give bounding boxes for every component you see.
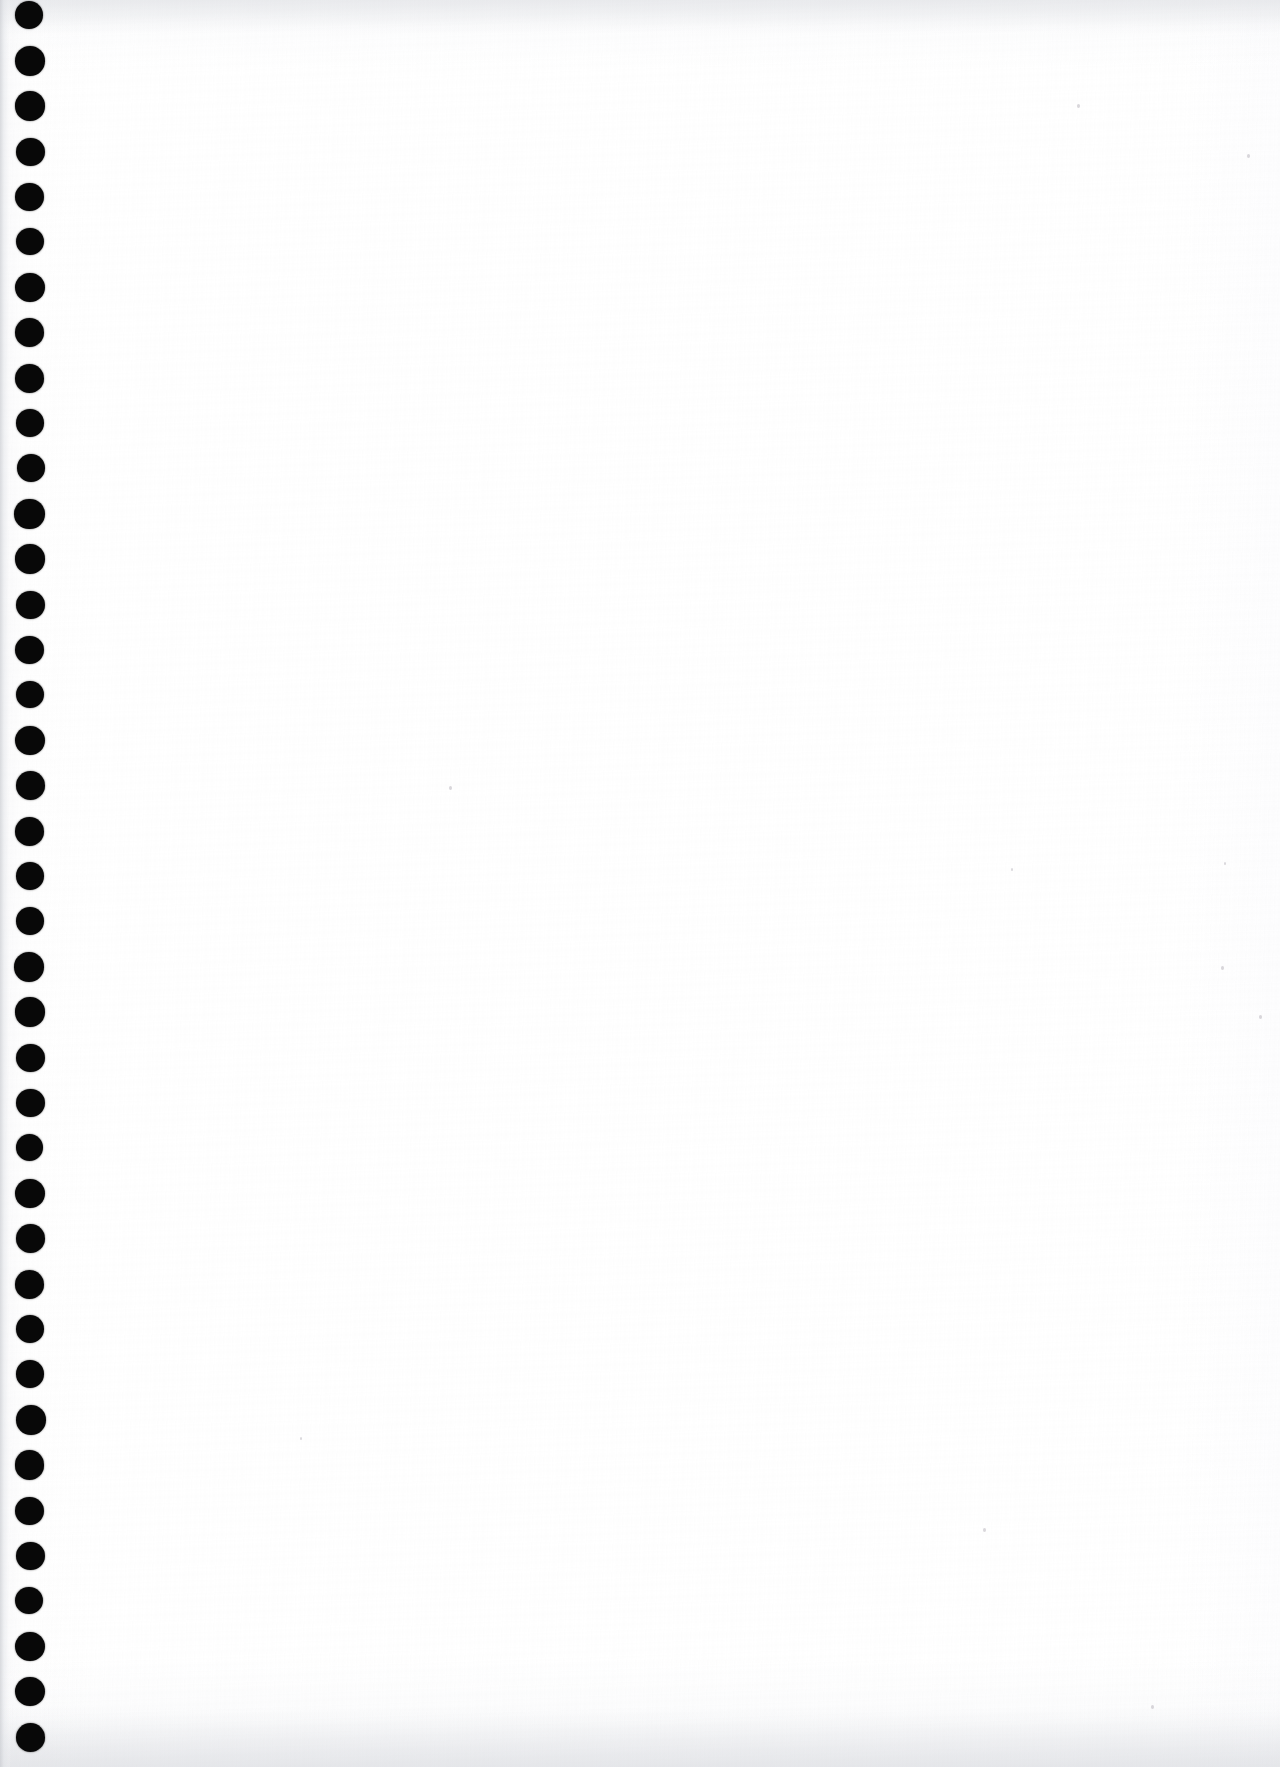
binding-hole [15, 726, 45, 756]
binding-hole [15, 364, 44, 393]
binding-hole [15, 1179, 45, 1209]
binding-hole [16, 1089, 44, 1117]
binding-hole [16, 409, 44, 437]
binding-hole [16, 681, 44, 708]
binding-hole [16, 1405, 46, 1435]
page-writing-area [70, 0, 1280, 1767]
binding-hole [16, 1360, 44, 1387]
binding-hole [15, 1270, 44, 1299]
binding-hole [16, 138, 45, 167]
binding-hole [15, 318, 45, 347]
binding-hole [17, 454, 45, 481]
binding-hole [16, 1315, 44, 1343]
binding-hole [16, 1723, 45, 1752]
binding-hole [15, 91, 45, 120]
binding-hole [15, 1, 43, 28]
binding-hole-column [0, 0, 70, 1767]
binding-hole [14, 499, 44, 529]
binding-hole [14, 952, 44, 982]
binding-hole [16, 591, 45, 620]
binding-hole [16, 228, 44, 255]
binding-hole [16, 1134, 44, 1161]
binding-hole [15, 1587, 43, 1614]
scanned-page [0, 0, 1280, 1767]
binding-hole [16, 862, 44, 890]
binding-hole [15, 46, 45, 76]
binding-hole [16, 907, 44, 934]
binding-hole [15, 1450, 45, 1479]
binding-hole [15, 1677, 45, 1706]
binding-hole [15, 636, 43, 664]
binding-hole [15, 183, 43, 211]
binding-hole [15, 544, 45, 573]
binding-hole [15, 1632, 45, 1662]
binding-hole [15, 817, 44, 846]
binding-hole [15, 273, 45, 303]
binding-hole [16, 1224, 46, 1253]
binding-hole [15, 997, 45, 1026]
binding-hole [16, 1542, 44, 1570]
binding-hole [16, 771, 46, 800]
binding-hole [16, 1044, 45, 1073]
binding-hole [15, 1497, 44, 1526]
